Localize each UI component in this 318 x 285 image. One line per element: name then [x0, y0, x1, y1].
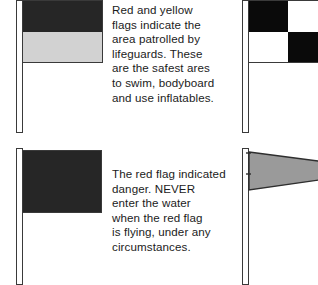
chequered-cell-top-right [288, 1, 318, 32]
pennant-body [249, 152, 318, 190]
chequered-cell-top-left [249, 1, 288, 32]
chequered-cell-bottom-left [249, 32, 288, 63]
chequered-flag-icon [248, 0, 318, 63]
red-yellow-flag-icon [22, 0, 103, 63]
caption-red-flag: The red flag indicated danger. NEVER ent… [112, 167, 237, 255]
chequered-cell-bottom-right [288, 32, 318, 63]
red-flag-field [23, 151, 101, 213]
flag-guide-figure: Red and yellow flags indicate the area p… [0, 0, 318, 285]
red-yellow-flag-band-yellow [23, 32, 102, 63]
red-flag-icon [22, 150, 102, 213]
windsock-pennant-icon [246, 148, 318, 196]
caption-red-yellow-flag: Red and yellow flags indicate the area p… [112, 3, 224, 105]
red-yellow-flag-band-red [23, 1, 102, 32]
